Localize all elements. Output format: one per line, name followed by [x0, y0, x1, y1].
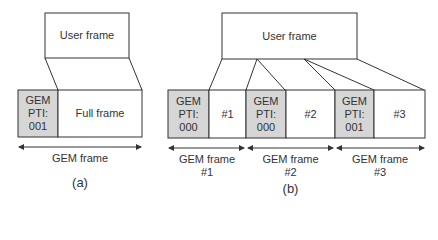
- gem-frame-span-label-a: GEM frame: [18, 152, 142, 165]
- mapping-line: [304, 59, 374, 90]
- gem-frame-span-label-3: GEM frame #3: [335, 153, 425, 179]
- full-frame-label: Full frame: [58, 107, 142, 120]
- gem-frame-span-label-2: GEM frame #2: [246, 153, 335, 179]
- mapping-line: [246, 59, 257, 90]
- caption-a: (a): [18, 175, 142, 190]
- payload-label-3: #3: [374, 108, 425, 121]
- mapping-line: [45, 58, 58, 90]
- user-frame-label-a: User frame: [45, 29, 129, 42]
- mapping-line: [357, 59, 424, 90]
- gem-header-label-1: GEM PTI: 000: [168, 95, 209, 134]
- caption-b: (b): [246, 181, 335, 196]
- mapping-line: [209, 59, 222, 90]
- mapping-line: [129, 58, 142, 90]
- payload-label-2: #2: [286, 108, 335, 121]
- gem-header-label-3: GEM PTI: 001: [335, 95, 374, 134]
- mapping-line: [257, 59, 285, 90]
- gem-header-label-a: GEM PTI: 001: [18, 94, 58, 133]
- gem-header-label-2: GEM PTI: 000: [246, 95, 286, 134]
- user-frame-label-b: User frame: [222, 30, 357, 43]
- mapping-line: [304, 59, 335, 90]
- payload-label-1: #1: [209, 108, 246, 121]
- gem-frame-span-label-1: GEM frame #1: [168, 153, 246, 179]
